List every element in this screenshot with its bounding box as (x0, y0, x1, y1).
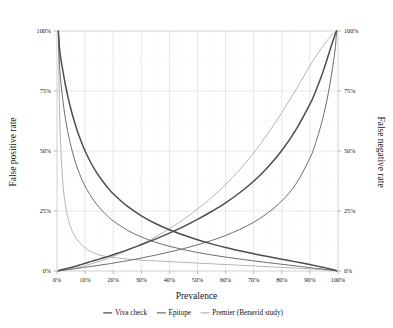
x-tick-label: 30% (136, 276, 147, 283)
y-tick-label: 0% (43, 267, 51, 274)
y-tick-label: 75% (40, 87, 51, 94)
x-axis-tickmarks (57, 271, 338, 274)
x-tick-label: 100% (331, 276, 345, 283)
y-axis-left-tick-labels: 0%25%50%75%100% (37, 27, 51, 274)
y-tick-label: 25% (40, 207, 51, 214)
y-tick-label: 100% (37, 27, 51, 34)
y2-tick-label: 75% (344, 87, 355, 94)
x-tick-label: 0% (53, 276, 61, 283)
y-axis-left-title: False positive rate (8, 117, 18, 186)
x-tick-label: 90% (304, 276, 315, 283)
legend-label-epitope[interactable]: Epitope (169, 309, 191, 317)
x-tick-label: 10% (79, 276, 90, 283)
x-tick-label: 40% (164, 276, 175, 283)
major-gridlines (57, 31, 338, 271)
y-axis-right-title: False negative rate (376, 116, 386, 187)
legend-label-premier-benavid-study[interactable]: Premier (Benavid study) (212, 309, 283, 317)
chart-legend: Viva checkEpitopePremier (Benavid study) (104, 309, 284, 317)
x-tick-label: 50% (192, 276, 203, 283)
x-axis-title: Prevalence (176, 291, 218, 301)
chart-container: 0%10%20%30%40%50%60%70%80%90%100% 0%25%5… (0, 0, 393, 328)
y2-tick-label: 25% (344, 207, 355, 214)
y2-tick-label: 50% (344, 147, 355, 154)
false-positive-negative-rate-chart: 0%10%20%30%40%50%60%70%80%90%100% 0%25%5… (0, 0, 393, 328)
x-tick-label: 80% (276, 276, 287, 283)
y-tick-label: 50% (40, 147, 51, 154)
x-tick-label: 60% (220, 276, 231, 283)
x-axis-tick-labels: 0%10%20%30%40%50%60%70%80%90%100% (53, 276, 345, 283)
y2-tick-label: 100% (344, 27, 358, 34)
x-tick-label: 20% (108, 276, 119, 283)
y-axis-left-tickmarks (54, 31, 57, 271)
y2-tick-label: 0% (344, 267, 352, 274)
legend-label-viva-check[interactable]: Viva check (115, 309, 148, 317)
y-axis-right-tick-labels: 0%25%50%75%100% (344, 27, 358, 274)
y-axis-right-tickmarks (338, 31, 341, 271)
x-tick-label: 70% (248, 276, 259, 283)
